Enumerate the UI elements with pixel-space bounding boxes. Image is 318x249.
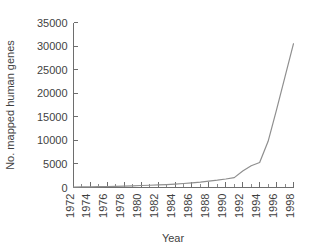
y-tick-label: 30000: [37, 40, 68, 52]
x-tick-label: 1976: [97, 194, 109, 218]
y-tick-label: 5000: [43, 158, 67, 170]
x-tick-label: 1980: [131, 194, 143, 218]
x-tick-label: 1990: [216, 194, 228, 218]
y-tick-label: 25000: [37, 64, 68, 76]
x-tick-label: 1984: [165, 194, 177, 218]
x-tick-label: 1992: [233, 194, 245, 218]
y-tick-label: 35000: [37, 17, 68, 29]
x-tick-label: 1972: [64, 194, 76, 218]
x-tick-label: 1994: [250, 194, 262, 218]
x-tick-label: 1996: [267, 194, 279, 218]
y-tick-label: 10000: [37, 134, 68, 146]
x-axis-title: Year: [162, 232, 185, 244]
x-tick-label: 1986: [182, 194, 194, 218]
y-axis-title: No. mapped human genes: [4, 40, 16, 170]
x-tick-label: 1982: [148, 194, 160, 218]
line-chart: 05000100001500020000250003000035000 1972…: [0, 0, 318, 249]
y-tick-label: 20000: [37, 87, 68, 99]
x-tick-label: 1998: [284, 194, 296, 218]
x-tick-label: 1978: [114, 194, 126, 218]
y-tick-label: 0: [61, 182, 67, 194]
x-tick-label: 1974: [80, 194, 92, 218]
y-tick-label: 15000: [37, 111, 68, 123]
x-tick-label: 1988: [199, 194, 211, 218]
chart-figure: 05000100001500020000250003000035000 1972…: [0, 0, 318, 249]
